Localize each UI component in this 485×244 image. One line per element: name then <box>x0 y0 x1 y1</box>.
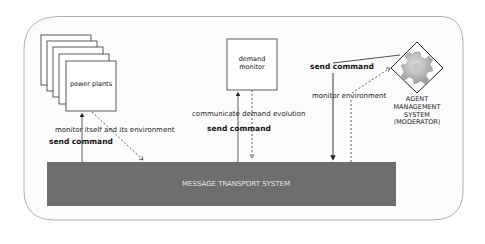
ams-monitor-label: monitor environment <box>312 93 386 100</box>
dm-send-command-label: send command <box>207 125 271 133</box>
power-plants-label: power plants <box>66 80 116 88</box>
agent-management-system-label: AGENT MANAGEMENT SYSTEM (MODERATOR) <box>372 96 462 127</box>
pp-monitor-label: monitor itself and its environment <box>55 127 174 134</box>
demand-monitor-line2: monitor <box>227 63 277 71</box>
ams-line4: (MODERATOR) <box>372 119 462 127</box>
demand-monitor-label: demand monitor <box>227 55 277 71</box>
ams-send-command-label: send command <box>310 63 374 71</box>
gear-icon <box>401 52 433 84</box>
pp-send-command-label: send command <box>49 138 113 146</box>
demand-monitor-line1: demand <box>227 55 277 63</box>
message-transport-label: MESSAGE TRANSPORT SYSTEM <box>182 180 290 188</box>
dm-communicate-label: communicate demand evolution <box>192 111 306 118</box>
